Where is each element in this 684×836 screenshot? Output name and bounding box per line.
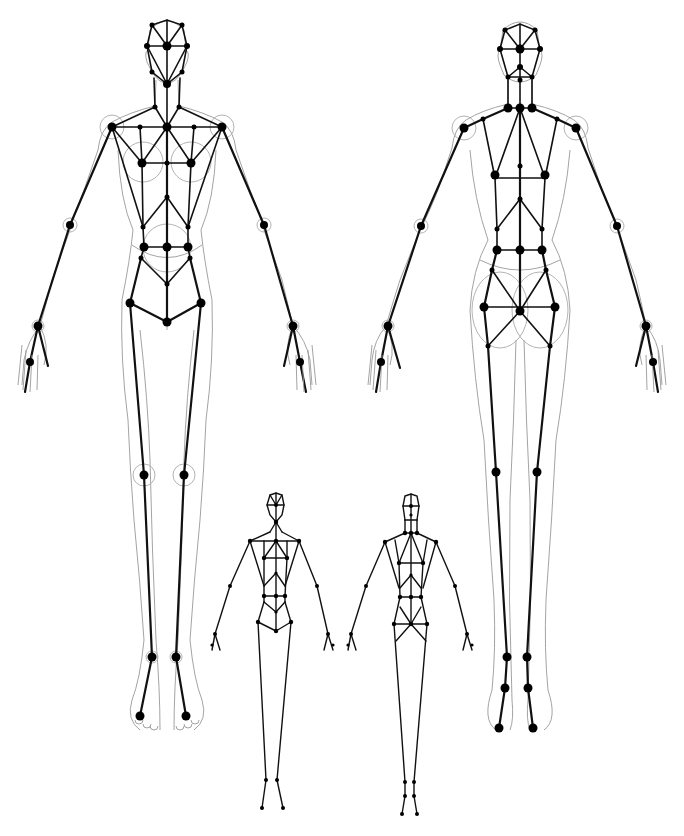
bones [212,493,333,808]
joints [26,23,304,721]
limb-bones [25,127,306,716]
figure-small-back [346,494,473,816]
skeleton-diagram: Human figure skeleton joint diagram [0,0,684,836]
figure-large-front [18,20,316,730]
hands-feet-outline [18,345,316,730]
hands-outline [368,345,666,392]
joints [210,503,334,810]
bones [348,494,472,814]
figure-small-front [210,493,334,810]
joints [377,28,657,733]
joints [346,504,473,816]
limb-bones [376,108,658,728]
